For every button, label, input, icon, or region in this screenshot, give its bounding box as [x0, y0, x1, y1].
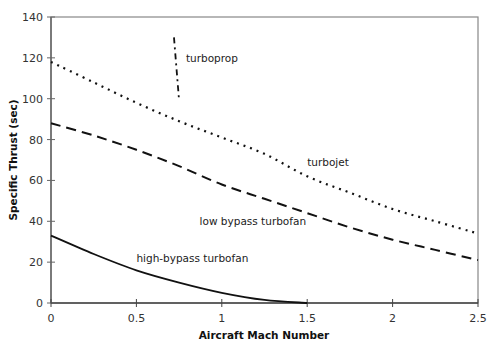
y-tick-label: 140: [22, 11, 43, 24]
plot-border: [51, 17, 478, 303]
y-tick-label: 40: [29, 215, 43, 228]
series-line-turbojet: [51, 62, 478, 234]
y-tick-label: 20: [29, 256, 43, 269]
series-line-turboprop: [174, 37, 179, 100]
series-label-low-bypass-turbofan: low bypass turbofan: [200, 215, 307, 227]
series-label-turbojet: turbojet: [307, 156, 349, 168]
x-tick-label: 0: [48, 312, 55, 325]
specific-thrust-chart: 020406080100120140 00.511.522.5 turbopro…: [0, 0, 492, 347]
y-axis-ticks: 020406080100120140: [22, 11, 55, 310]
x-tick-label: 0.5: [128, 312, 146, 325]
series-line-high-bypass-turbofan: [51, 236, 307, 303]
series-labels: turbopropturbojetlow bypass turbofanhigh…: [136, 52, 348, 264]
x-tick-label: 2: [389, 312, 396, 325]
series-line-low-bypass-turbofan: [51, 123, 478, 260]
y-tick-label: 0: [36, 297, 43, 310]
series-label-turboprop: turboprop: [186, 52, 238, 64]
plot-frame: [51, 17, 478, 303]
x-tick-label: 1: [218, 312, 225, 325]
x-tick-label: 2.5: [469, 312, 487, 325]
y-axis-title: Specific Thrust (sec): [7, 99, 19, 220]
y-tick-label: 120: [22, 52, 43, 65]
y-tick-label: 100: [22, 93, 43, 106]
x-axis-title: Aircraft Mach Number: [199, 329, 330, 341]
y-tick-label: 60: [29, 174, 43, 187]
series-lines: [51, 37, 478, 303]
series-label-high-bypass-turbofan: high-bypass turbofan: [136, 252, 248, 264]
x-tick-label: 1.5: [298, 312, 316, 325]
y-tick-label: 80: [29, 134, 43, 147]
